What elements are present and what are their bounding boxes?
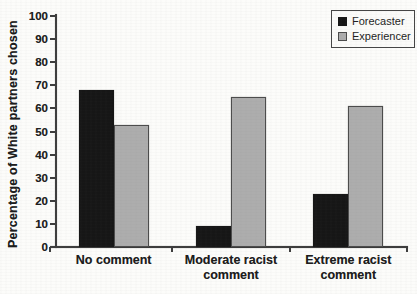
y-tick-label-60: 60 [16, 101, 48, 115]
category-label-3: Extreme racist comment [288, 253, 408, 282]
y-tick-20 [50, 200, 55, 202]
forecaster-swatch-icon [338, 17, 347, 26]
category-label-2: Moderate racist comment [171, 253, 291, 282]
y-tick-70 [50, 84, 55, 86]
y-axis-line [55, 14, 57, 248]
bar-experiencer-category-2 [231, 97, 266, 247]
y-tick-40 [50, 154, 55, 156]
category-label-1: No comment [54, 253, 174, 268]
x-tick-3 [406, 247, 408, 252]
bar-chart-figure: Percentage of White partners chosen 0102… [0, 0, 417, 294]
y-tick-label-10: 10 [16, 217, 48, 231]
y-tick-label-40: 40 [16, 148, 48, 162]
y-tick-label-70: 70 [16, 78, 48, 92]
legend-label-forecaster: Forecaster [352, 14, 405, 29]
legend-label-experiencer: Experiencer [352, 29, 411, 44]
y-tick-label-100: 100 [16, 9, 48, 23]
y-tick-90 [50, 38, 55, 40]
bar-forecaster-category-1 [79, 90, 114, 247]
legend: Forecaster Experiencer [331, 10, 415, 48]
bar-forecaster-category-3 [313, 194, 348, 247]
y-tick-10 [50, 223, 55, 225]
bar-experiencer-category-3 [348, 106, 383, 247]
legend-item-experiencer: Experiencer [338, 29, 414, 44]
y-tick-50 [50, 131, 55, 133]
experiencer-swatch-icon [338, 32, 347, 41]
bar-experiencer-category-1 [114, 125, 149, 247]
x-tick-1 [171, 247, 173, 252]
y-tick-label-20: 20 [16, 194, 48, 208]
y-tick-30 [50, 177, 55, 179]
y-tick-80 [50, 61, 55, 63]
x-tick-0 [49, 247, 51, 252]
y-tick-100 [50, 15, 55, 17]
y-tick-label-30: 30 [16, 171, 48, 185]
y-tick-label-90: 90 [16, 32, 48, 46]
bar-forecaster-category-2 [196, 226, 231, 247]
y-tick-label-80: 80 [16, 55, 48, 69]
x-tick-2 [289, 247, 291, 252]
legend-item-forecaster: Forecaster [338, 14, 414, 29]
y-tick-label-0: 0 [16, 240, 48, 254]
y-tick-label-50: 50 [16, 125, 48, 139]
y-tick-60 [50, 107, 55, 109]
